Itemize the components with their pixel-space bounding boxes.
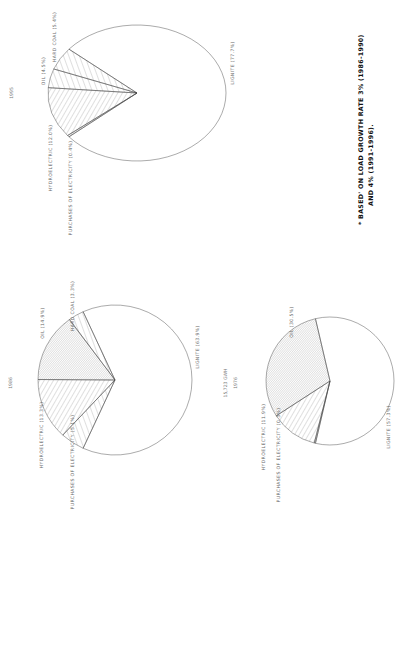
label-1995-purchases: PURCHASES OF ELECTRICITY (0.4%) bbox=[68, 140, 73, 235]
label-1986-lignite: LIGNITE (63.9%) bbox=[195, 325, 200, 369]
label-1976-purchases: PURCHASES OF ELECTRICITY (0.3%) bbox=[276, 407, 281, 502]
pie-chart-1976 bbox=[266, 317, 394, 445]
label-1986-hard-coal: HARD COAL (3.3%) bbox=[70, 281, 75, 331]
label-1995-lignite: LIGNITE (77.7%) bbox=[230, 41, 235, 85]
footnote-line-1: * BASED' ON LOAD GROWTH RATE 3% (1986-19… bbox=[357, 34, 364, 225]
chart-canvas: 1995 1986 1976 15,723 GWH OIL (4.5%) HAR… bbox=[0, 0, 414, 672]
chart-title-1976: 1976 bbox=[233, 377, 238, 389]
label-1995-oil: OIL (4.5%) bbox=[41, 57, 46, 85]
label-1976-lignite: LIGNITE (57.3%) bbox=[386, 405, 391, 449]
pie-chart-1986 bbox=[38, 305, 192, 455]
footnote-line-2: AND 4% (1991-1996). bbox=[367, 124, 374, 206]
chart-title-1986: 1986 bbox=[8, 377, 13, 389]
label-1995-hydroelectric: HYDROELECTRIC (12.0%) bbox=[48, 125, 53, 192]
label-1976-oil: OIL (30.5%) bbox=[289, 306, 294, 338]
chart-subtitle-total-1976: 15,723 GWH bbox=[223, 368, 228, 397]
label-1995-hard-coal: HARD COAL (5.4%) bbox=[52, 12, 57, 62]
label-1986-oil: OIL (14.9%) bbox=[40, 307, 45, 339]
label-1986-hydroelectric: HYDROELECTRIC (13.3%) bbox=[39, 402, 44, 469]
label-1986-purchases: PURCHASES OF ELECTRICITY (5.1%) bbox=[70, 414, 75, 509]
label-1976-hydroelectric: HYDROELECTRIC (11.9%) bbox=[261, 404, 266, 471]
chart-title-1995: 1995 bbox=[9, 87, 14, 99]
pie-chart-1995 bbox=[48, 25, 226, 161]
